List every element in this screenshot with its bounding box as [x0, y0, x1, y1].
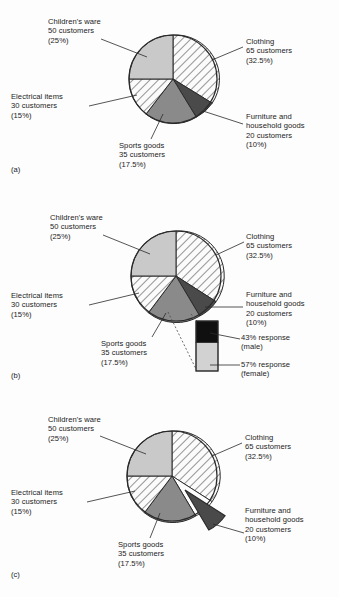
label-female-response: 57% response (female) — [241, 360, 290, 379]
label-male-response: 43% response (male) — [241, 333, 290, 352]
leader-clothing — [212, 443, 242, 456]
label-sports-goods: Sports goods 35 customers (17.5%) — [101, 339, 147, 367]
leader-electrical-items — [89, 95, 137, 106]
pie-chart-panel-b: Children's ware 50 customers (25%) Cloth… — [0, 197, 339, 396]
label-electrical-items: Electrical items 30 customers (15%) — [11, 92, 63, 120]
label-sports-goods: Sports goods 35 customers (17.5%) — [118, 540, 164, 568]
bar-segment-female[interactable] — [196, 343, 218, 372]
leader-furniture — [203, 111, 243, 124]
bar-segment-male[interactable] — [196, 321, 218, 343]
label-electrical-items: Electrical items 30 customers (15%) — [11, 488, 63, 516]
label-clothing: Clothing 65 customers (32.5%) — [246, 232, 292, 260]
leader-clothing — [216, 242, 244, 255]
panel-tag-b: (b) — [11, 371, 20, 380]
label-clothing: Clothing 65 customers (32.5%) — [246, 37, 292, 65]
panel-tag-a: (a) — [11, 165, 20, 174]
pie-slice-childrens-ware[interactable] — [131, 231, 176, 276]
label-electrical-items: Electrical items 30 customers (15%) — [11, 291, 63, 319]
label-furniture: Furniture and household goods 20 custome… — [245, 506, 304, 544]
pie-chart-panel-a: Children's ware 50 customers (25%) Cloth… — [0, 0, 339, 197]
label-furniture: Furniture and household goods 20 custome… — [246, 290, 305, 328]
leader-electrical-items — [87, 491, 135, 502]
label-furniture: Furniture and household goods 20 custome… — [246, 112, 305, 150]
pie-chart-panel-c: Children's ware 50 customers (25%) Cloth… — [0, 396, 339, 597]
panel-tag-c: (c) — [11, 570, 20, 579]
leader-childrens-ware — [101, 39, 147, 57]
leader-furniture — [213, 524, 244, 533]
leader-electrical-items — [89, 293, 139, 305]
pie-slice-childrens-ware[interactable] — [129, 35, 173, 79]
label-childrens-ware: Children's ware 50 customers (25%) — [48, 415, 101, 443]
label-clothing: Clothing 65 customers (32.5%) — [245, 433, 291, 461]
label-childrens-ware: Children's ware 50 customers (25%) — [50, 213, 103, 241]
leader-clothing — [212, 47, 243, 60]
label-sports-goods: Sports goods 35 customers (17.5%) — [119, 141, 165, 169]
pie-slice-childrens-ware[interactable] — [127, 431, 172, 476]
leader-childrens-ware — [103, 235, 150, 254]
label-childrens-ware: Children's ware 50 customers (25%) — [48, 17, 101, 45]
